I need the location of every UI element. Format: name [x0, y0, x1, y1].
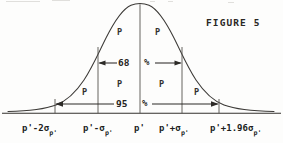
probability-letter-upper-left: P	[117, 28, 122, 37]
axis-label-minus-1-sigma: p'-σp'	[83, 124, 113, 133]
outer-band-arrow-left-head	[55, 101, 63, 107]
axis-label-minus-2-sigma: p'-2σp'	[22, 124, 57, 133]
axis-label-minus-2-sigma-subscript: p'	[49, 129, 57, 137]
axis-label-minus-2-sigma-main: p'-2σ	[22, 123, 49, 133]
inner-band-percent-symbol: %	[144, 58, 149, 67]
axis-label-mean: p'	[134, 124, 145, 133]
figure-5-diagram: FIGURE 5 P P 68 % P P P P 95 % p'-2σp' p…	[0, 0, 283, 143]
axis-label-plus-196-sigma-main: p'+1.96σ	[210, 123, 253, 133]
probability-letter-mid-left: P	[117, 80, 122, 89]
inner-band-value: 68	[118, 58, 129, 68]
axis-label-plus-1-sigma-main: p'+σ	[159, 123, 181, 133]
inner-band-arrow-left-head	[98, 60, 105, 65]
axis-label-plus-196-sigma: p'+1.96σp'	[210, 124, 261, 133]
outer-band-percent-symbol: %	[142, 99, 147, 108]
axis-label-plus-1-sigma: p'+σp'	[159, 124, 189, 133]
axis-label-plus-1-sigma-subscript: p'	[181, 129, 189, 137]
outer-band-value: 95	[116, 99, 127, 109]
axis-label-plus-196-sigma-subscript: p'	[254, 129, 262, 137]
inner-band-arrow-right-head	[175, 60, 182, 65]
figure-title: FIGURE 5	[206, 18, 261, 28]
probability-letter-mid-right: P	[159, 80, 164, 89]
probability-letter-upper-right: P	[155, 28, 160, 37]
axis-label-minus-1-sigma-main: p'-σ	[83, 123, 105, 133]
probability-letter-outer-right: P	[194, 88, 199, 97]
probability-letter-outer-left: P	[82, 88, 87, 97]
axis-label-minus-1-sigma-subscript: p'	[105, 129, 113, 137]
